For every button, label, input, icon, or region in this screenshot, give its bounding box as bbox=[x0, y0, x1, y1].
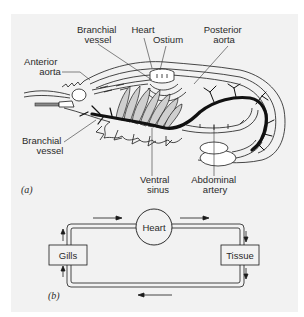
label-posterior-aorta: Posterior aorta bbox=[204, 24, 245, 45]
label-ventral-sinus: Ventral sinus bbox=[140, 174, 172, 195]
panel-label-b: (b) bbox=[48, 290, 60, 302]
arrow-down-icon bbox=[244, 274, 248, 279]
label-ostium: Ostium bbox=[153, 34, 183, 45]
label-heart: Heart bbox=[131, 24, 155, 35]
label-branchial-vessel-top: Branchial vessel bbox=[77, 24, 119, 45]
arrow-right-icon bbox=[203, 216, 209, 220]
gill-lamellae bbox=[116, 86, 182, 128]
ventral-vessel bbox=[80, 84, 274, 150]
arrow-up-icon bbox=[61, 229, 65, 234]
heart-node-label: Heart bbox=[142, 222, 166, 233]
gills-node-label: Gills bbox=[59, 250, 78, 261]
tissue-node-label: Tissue bbox=[226, 250, 254, 261]
arrow-up-icon bbox=[61, 266, 65, 271]
panel-label-a: (a) bbox=[21, 184, 33, 196]
label-branchial-vessel-left: Branchial vessel bbox=[22, 135, 64, 156]
arrow-left-icon bbox=[138, 293, 144, 297]
label-abdominal-artery: Abdominal artery bbox=[191, 174, 239, 195]
arrow-down-icon bbox=[244, 237, 248, 242]
arrow-right-icon bbox=[116, 216, 122, 220]
figure-svg: Branchial vessel Heart Ostium Posterior … bbox=[0, 0, 304, 317]
circulation-schematic: Heart Gills Tissue bbox=[48, 209, 259, 302]
label-anterior-aorta: Anterior aorta bbox=[24, 56, 61, 77]
